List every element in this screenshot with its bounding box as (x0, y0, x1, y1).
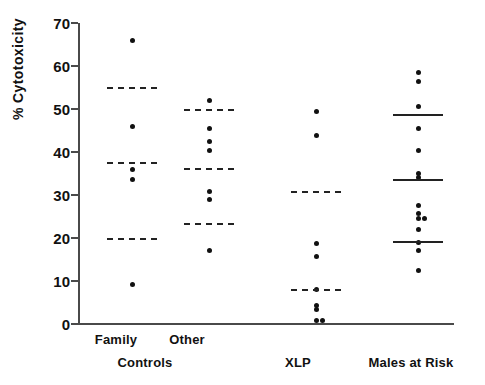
data-point (130, 38, 135, 43)
y-tick-label: 40 (30, 145, 70, 160)
summary-line (184, 168, 234, 170)
data-point (207, 126, 212, 131)
y-tick-label: 20 (30, 231, 70, 246)
data-point (416, 227, 421, 232)
y-axis-tick-labels: 70 60 50 40 30 20 10 0 (26, 23, 70, 325)
y-tick-label: 50 (30, 102, 70, 117)
data-point (416, 126, 421, 131)
summary-line (393, 241, 443, 243)
summary-line (393, 179, 443, 181)
y-tick-mark (71, 194, 78, 196)
data-point (314, 109, 319, 114)
y-tick-mark (71, 237, 78, 239)
y-tick-label: 60 (30, 59, 70, 74)
y-tick-mark (71, 323, 78, 325)
group-label-other: Other (157, 332, 217, 347)
data-point (422, 216, 427, 221)
y-tick-label: 0 (30, 317, 70, 332)
data-point (416, 268, 421, 273)
cytotoxicity-dot-plot-figure: % Cytotoxicity 70 60 50 40 30 20 10 0 Fa… (0, 0, 485, 385)
data-point (416, 248, 421, 253)
data-point (130, 167, 135, 172)
data-point (207, 197, 212, 202)
summary-line (184, 223, 234, 225)
y-tick-label: 70 (30, 16, 70, 31)
summary-line (107, 87, 157, 89)
y-axis-line (78, 23, 80, 325)
summary-line (291, 191, 341, 193)
y-tick-mark (71, 22, 78, 24)
data-point (314, 241, 319, 246)
summary-line (291, 289, 341, 291)
data-point (207, 189, 212, 194)
data-point (314, 307, 319, 312)
data-point (314, 133, 319, 138)
data-point (207, 148, 212, 153)
data-point (416, 203, 421, 208)
y-tick-mark (71, 151, 78, 153)
y-tick-label: 10 (30, 274, 70, 289)
summary-line (184, 109, 234, 111)
data-point (130, 124, 135, 129)
summary-line (107, 238, 157, 240)
data-point (207, 139, 212, 144)
summary-line (107, 162, 157, 164)
data-point (207, 98, 212, 103)
data-point (416, 148, 421, 153)
data-point (130, 282, 135, 287)
supergroup-label-controls: Controls (105, 355, 185, 370)
supergroup-label-males-at-risk: Males at Risk (356, 355, 466, 370)
summary-line (393, 114, 443, 116)
data-point (416, 79, 421, 84)
supergroup-label-xlp: XLP (276, 355, 320, 370)
y-tick-mark (71, 280, 78, 282)
data-point (207, 248, 212, 253)
y-axis-label: % Cytotoxicity (10, 0, 26, 139)
group-label-family: Family (86, 332, 146, 347)
data-point (130, 177, 135, 182)
data-point (416, 216, 421, 221)
y-tick-mark (71, 108, 78, 110)
data-point (416, 104, 421, 109)
data-point (416, 70, 421, 75)
x-axis-line (78, 323, 454, 325)
plot-area (78, 23, 454, 324)
data-point (314, 254, 319, 259)
y-tick-label: 30 (30, 188, 70, 203)
y-tick-mark (71, 65, 78, 67)
